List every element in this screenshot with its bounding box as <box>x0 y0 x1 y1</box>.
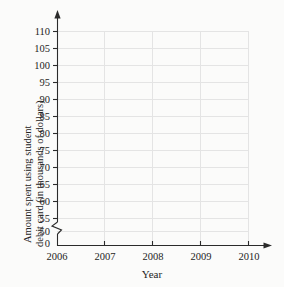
x-axis-arrowhead <box>264 242 273 248</box>
x-axis-title: Year <box>142 268 162 280</box>
x-tick-marks <box>105 241 249 246</box>
y-axis-break-symbol <box>52 222 62 234</box>
x-tick-label-2007: 2007 <box>95 252 116 263</box>
x-tick-label-2010: 2010 <box>239 252 260 263</box>
y-axis-title-line-1: Amount spent using student <box>22 125 33 243</box>
y-tick-label-100: 100 <box>22 60 50 71</box>
vertical-gridlines <box>105 31 249 245</box>
y-tick-marks <box>53 32 58 219</box>
y-tick-label-105: 105 <box>22 43 50 54</box>
y-axis-arrowhead <box>54 10 60 19</box>
x-tick-label-2009: 2009 <box>191 252 212 263</box>
y-tick-label-110: 110 <box>22 26 50 37</box>
y-axis-title-line-2: debit card (in thousands of dollars) <box>34 100 45 247</box>
y-tick-label-95: 95 <box>22 77 50 88</box>
x-tick-label-2008: 2008 <box>143 252 164 263</box>
x-tick-label-2006: 2006 <box>47 252 68 263</box>
chart-figure: 110 105 100 95 90 85 80 75 70 65 60 55 5… <box>0 0 284 287</box>
